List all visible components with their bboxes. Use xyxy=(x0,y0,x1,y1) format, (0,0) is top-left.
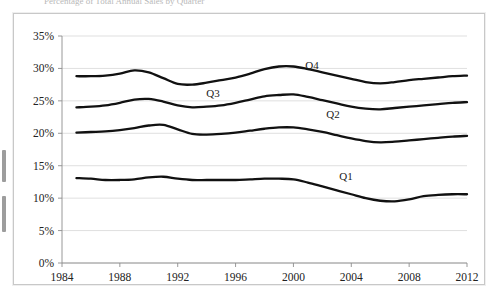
series-annotation-q4: Q4 xyxy=(305,59,319,71)
x-axis-label-1996: 1996 xyxy=(224,271,247,283)
y-axis-label-5: 5% xyxy=(39,225,55,237)
y-axis-label-20: 20% xyxy=(33,127,55,139)
y-axis-label-15: 15% xyxy=(33,160,55,172)
x-axis-label-2012: 2012 xyxy=(456,271,479,283)
chart-plot-area: 0%5%10%15%20%25%30%35% 19841988199219962… xyxy=(0,0,498,293)
x-axis-label-1984: 1984 xyxy=(51,271,74,283)
x-axis-labels-group: 19841988199219962000200420082012 xyxy=(51,271,479,283)
series-annotation-q1: Q1 xyxy=(339,170,352,182)
series-line-q1 xyxy=(76,177,467,202)
y-axis-labels-group: 0%5%10%15%20%25%30%35% xyxy=(33,30,55,269)
series-annotations-group: Q1Q2Q3Q4 xyxy=(206,59,352,182)
series-annotation-q3: Q3 xyxy=(206,87,220,99)
series-annotation-q2: Q2 xyxy=(326,108,339,120)
y-axis-label-0: 0% xyxy=(39,257,55,269)
y-axis-label-35: 35% xyxy=(33,30,55,42)
x-axis-label-2008: 2008 xyxy=(398,271,421,283)
x-axis-label-2004: 2004 xyxy=(340,271,363,283)
y-axis-label-10: 10% xyxy=(33,192,55,204)
x-axis-label-2000: 2000 xyxy=(282,271,305,283)
x-axis-label-1992: 1992 xyxy=(166,271,189,283)
series-line-q3 xyxy=(76,94,467,109)
y-axis-label-25: 25% xyxy=(33,95,55,107)
x-axis-label-1988: 1988 xyxy=(108,271,131,283)
series-line-q4 xyxy=(76,66,467,85)
y-axis-label-30: 30% xyxy=(33,62,55,74)
data-series-group xyxy=(76,66,467,201)
line-chart-svg: 0%5%10%15%20%25%30%35% 19841988199219962… xyxy=(0,0,498,293)
